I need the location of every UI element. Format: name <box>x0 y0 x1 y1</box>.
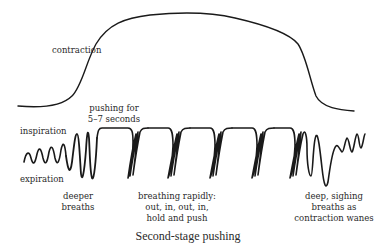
breathing-waveform <box>24 128 365 186</box>
figure-caption: Second-stage pushing <box>136 229 241 244</box>
expiration-label: expiration <box>20 174 64 185</box>
pushing-annotation: pushing for 5–7 seconds <box>88 103 140 125</box>
sighing-breaths-annotation: deep, sighing breaths as contraction wan… <box>294 191 373 224</box>
second-stage-pushing-diagram: contraction pushing for 5–7 seconds insp… <box>0 0 374 249</box>
breathing-rapidly-annotation: breathing rapidly: out, in, out, in, hol… <box>138 191 216 224</box>
deeper-breaths-annotation: deeper breaths <box>62 191 95 213</box>
contraction-curve <box>18 13 354 111</box>
contraction-label: contraction <box>52 45 101 56</box>
inspiration-label: inspiration <box>20 126 67 137</box>
